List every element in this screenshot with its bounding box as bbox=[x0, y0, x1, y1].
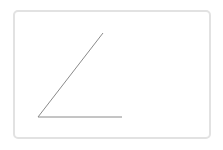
angle-diagram bbox=[0, 0, 223, 150]
angle-ray-slanted bbox=[38, 33, 103, 117]
